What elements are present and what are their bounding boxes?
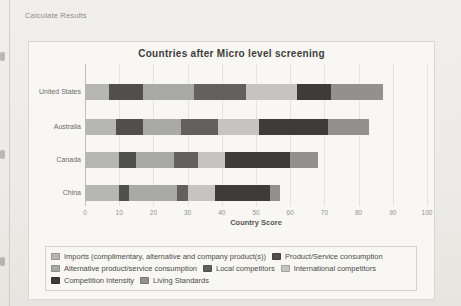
bar-segment — [177, 185, 187, 201]
legend-swatch-icon — [272, 253, 281, 260]
legend-item: Product/Service consumption — [272, 251, 383, 262]
legend-item: Imports (complimentary, alternative and … — [51, 251, 266, 262]
legend-swatch-icon — [51, 253, 60, 260]
legend-swatch-icon — [140, 277, 149, 284]
legend-label: Imports (complimentary, alternative and … — [64, 251, 266, 262]
legend-label: Alternative product/service consumption — [64, 263, 197, 274]
bar-segment — [225, 152, 290, 168]
axis-tick-label: 90 — [378, 209, 408, 216]
bar-segment — [116, 119, 143, 135]
legend-swatch-icon — [281, 265, 290, 272]
legend-label: Competition Intensity — [64, 275, 134, 286]
category-label: China — [29, 189, 81, 196]
legend-label: Local competitors — [216, 263, 275, 274]
legend: Imports (complimentary, alternative and … — [45, 246, 417, 291]
bar-segment — [188, 185, 215, 201]
category-label: United States — [29, 88, 81, 95]
chart-title: Countries after Micro level screening — [29, 48, 434, 59]
axis-tick-label: 100 — [412, 209, 442, 216]
legend-swatch-icon — [51, 277, 60, 284]
chart-panel: Countries after Micro level screening Un… — [28, 41, 435, 300]
axis-tick-label: 40 — [207, 209, 237, 216]
bar-segment — [246, 84, 297, 100]
category-label: Canada — [29, 156, 81, 163]
plot-area — [85, 64, 427, 206]
bar-segment — [174, 152, 198, 168]
bar-segment — [215, 185, 270, 201]
scan-artifact — [0, 257, 5, 266]
bar-segment — [328, 119, 369, 135]
bar-segment — [331, 84, 382, 100]
legend-label: International competitors — [294, 263, 376, 274]
scan-artifact — [0, 150, 5, 159]
axis-tick-label: 0 — [70, 209, 100, 216]
axis-tick-label: 50 — [241, 209, 271, 216]
axis-tick-label: 10 — [104, 209, 134, 216]
legend-swatch-icon — [203, 265, 212, 272]
legend-item: Competition Intensity — [51, 275, 134, 286]
category-label: Australia — [29, 123, 81, 130]
bar-segment — [181, 119, 219, 135]
legend-item: International competitors — [281, 263, 376, 274]
bar-segment — [143, 84, 194, 100]
axis-tick-label: 80 — [344, 209, 374, 216]
bar-segment — [297, 84, 331, 100]
scan-artifact — [0, 52, 5, 61]
bar-segment — [85, 185, 119, 201]
bar-segment — [198, 152, 225, 168]
legend-label: Living Standards — [153, 275, 209, 286]
bar-segment — [85, 84, 109, 100]
x-axis-title: Country Score — [85, 218, 427, 227]
calculate-results-link[interactable]: Calculate Results — [25, 11, 87, 20]
page-edge-artifact — [9, 0, 10, 306]
bar-segment — [85, 152, 119, 168]
bar-segment — [85, 119, 116, 135]
bar-segment — [270, 185, 280, 201]
bar-segment — [109, 84, 143, 100]
bar-segment — [136, 152, 174, 168]
bar-segment — [143, 119, 181, 135]
legend-label: Product/Service consumption — [285, 251, 383, 262]
bar-segment — [259, 119, 327, 135]
bar-segment — [129, 185, 177, 201]
legend-swatch-icon — [51, 265, 60, 272]
legend-item: Living Standards — [140, 275, 209, 286]
bar-segment — [119, 185, 129, 201]
axis-tick-label: 30 — [173, 209, 203, 216]
bar-segment — [194, 84, 245, 100]
axis-tick-label: 20 — [138, 209, 168, 216]
gridline — [393, 64, 394, 206]
legend-item: Alternative product/service consumption — [51, 263, 197, 274]
axis-tick-label: 60 — [275, 209, 305, 216]
legend-item: Local competitors — [203, 263, 275, 274]
bar-segment — [218, 119, 259, 135]
gridline — [427, 64, 428, 206]
axis-tick-label: 70 — [309, 209, 339, 216]
bar-segment — [119, 152, 136, 168]
bar-segment — [290, 152, 317, 168]
